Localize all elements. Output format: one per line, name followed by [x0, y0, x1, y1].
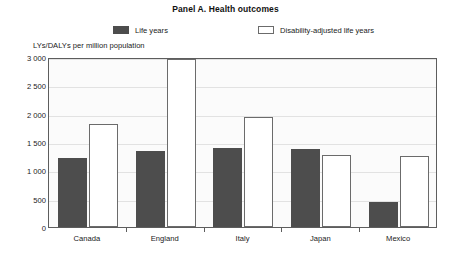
chart-figure: Panel A. Health outcomes Life years Disa…: [0, 0, 451, 254]
bar: [167, 59, 196, 227]
bar: [89, 124, 118, 227]
legend-item-label: Life years: [135, 26, 168, 35]
x-axis-tick-mark: [359, 228, 360, 232]
bar: [58, 158, 87, 227]
square-filled-icon: [113, 26, 129, 34]
x-axis-tick-label: Canada: [74, 234, 101, 243]
bar-group: [282, 59, 360, 227]
legend-item-label: Disability-adjusted life years: [280, 26, 374, 35]
bar: [291, 149, 320, 227]
y-axis-title: LYs/DALYs per million population: [33, 41, 145, 50]
square-outline-icon: [258, 26, 274, 34]
y-axis-tick-label: 1 000: [2, 167, 46, 176]
bar: [244, 117, 273, 228]
page-title: Panel A. Health outcomes: [0, 4, 451, 14]
y-axis-tick-labels: 05001 0001 5002 0002 5003 000: [0, 0, 46, 254]
y-axis-tick-label: 0: [2, 224, 46, 233]
x-axis-tick-label: Mexico: [386, 234, 410, 243]
x-axis-tick-label: Japan: [310, 234, 331, 243]
x-axis-tick-label: Italy: [236, 234, 250, 243]
x-axis-tick-label: England: [151, 234, 179, 243]
bar: [369, 202, 398, 227]
bar-group: [360, 59, 437, 227]
bar-group: [127, 59, 205, 227]
bar: [322, 155, 351, 227]
chart-legend: Life years Disability-adjusted life year…: [0, 22, 451, 38]
bar: [136, 151, 165, 227]
x-axis-tick-mark: [126, 228, 127, 232]
y-axis-tick-label: 2 000: [2, 110, 46, 119]
bar: [213, 148, 242, 227]
x-axis-tick-mark: [204, 228, 205, 232]
y-axis-tick-label: 500: [2, 195, 46, 204]
y-axis-tick-label: 3 000: [2, 54, 46, 63]
y-axis-tick-label: 2 500: [2, 82, 46, 91]
legend-item-life-years: Life years: [113, 22, 168, 38]
bar-series-container: [49, 59, 436, 227]
bar: [400, 156, 429, 227]
bar-group: [49, 59, 127, 227]
bar-group: [205, 59, 283, 227]
y-axis-tick-label: 1 500: [2, 139, 46, 148]
plot-area: [48, 58, 437, 228]
x-axis-tick-mark: [281, 228, 282, 232]
legend-item-daly: Disability-adjusted life years: [258, 22, 374, 38]
